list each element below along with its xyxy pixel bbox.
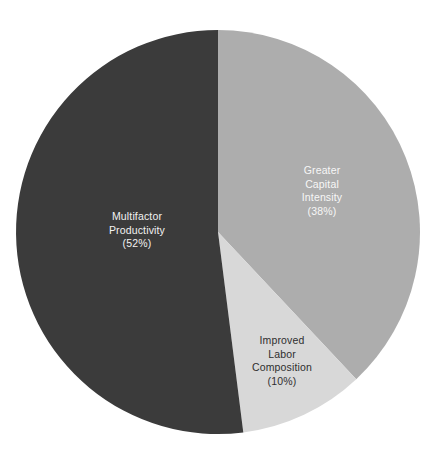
- pie-chart-figure: Multifactor Productivity (52%) Greater C…: [0, 0, 438, 460]
- pie-chart-canvas: [0, 0, 438, 460]
- pie-slice-group: [16, 30, 420, 434]
